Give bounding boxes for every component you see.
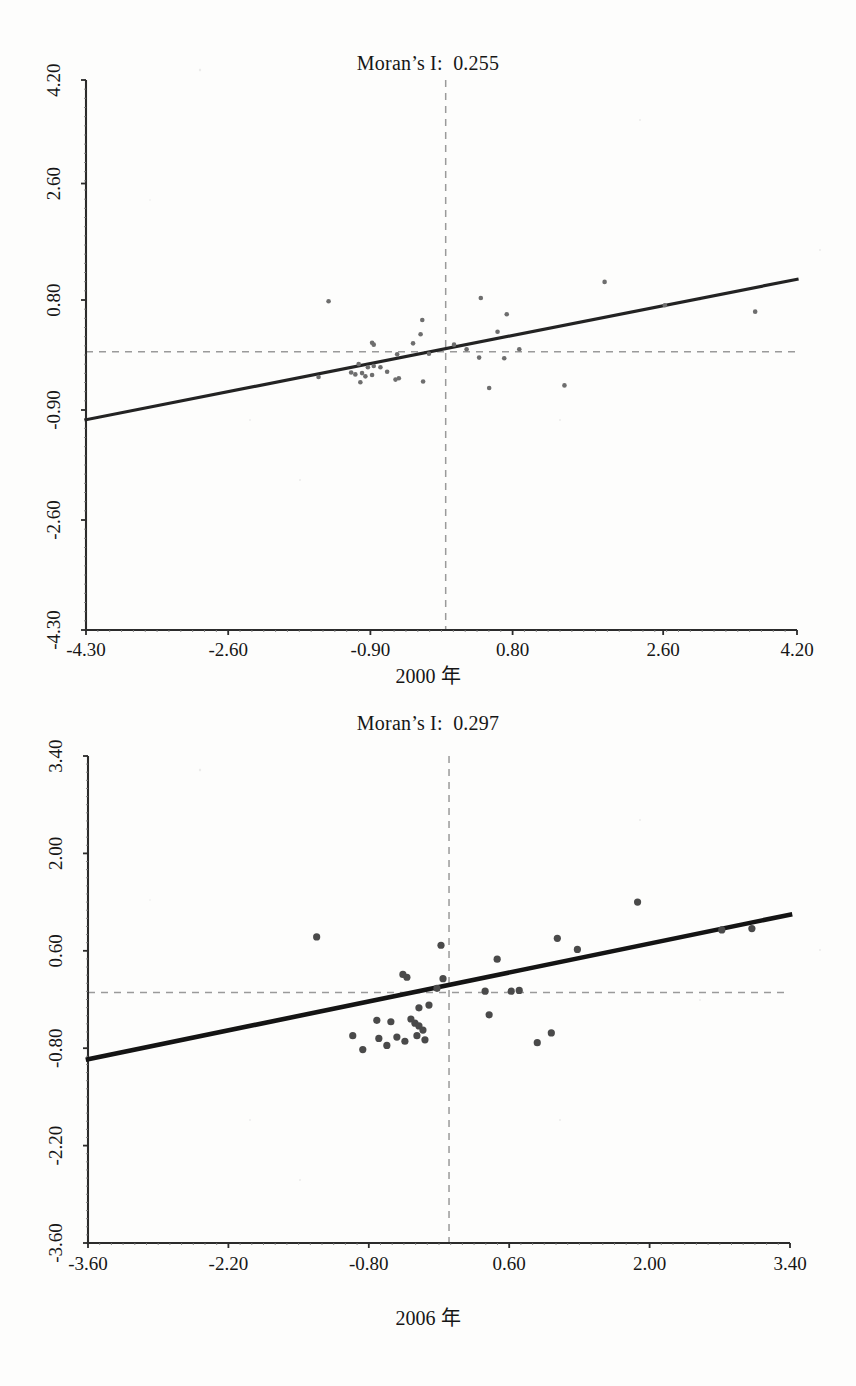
data-point <box>574 946 581 953</box>
paper-speck <box>639 119 641 121</box>
paper-speck <box>299 1179 301 1181</box>
data-point <box>634 899 641 906</box>
x-axis-tick-label: -4.30 <box>66 639 106 660</box>
x-axis-tick-label: -0.90 <box>351 639 391 660</box>
data-point <box>399 971 406 978</box>
data-point <box>562 383 567 388</box>
y-axis-tick-label: 2.00 <box>45 837 66 870</box>
data-point <box>395 352 400 357</box>
x-axis-tick-label: -2.60 <box>208 639 248 660</box>
paper-speck <box>199 69 201 71</box>
x-axis-caption-2000: 2000 年 <box>0 660 856 689</box>
data-point <box>360 371 365 376</box>
scatter-plot-2006: -3.60-2.20-0.800.602.003.40-3.60-2.20-0.… <box>0 700 856 1320</box>
x-axis-tick-label: 3.40 <box>773 1253 806 1274</box>
data-point <box>502 356 507 361</box>
y-axis-tick-label: -3.60 <box>45 1223 66 1263</box>
x-axis-tick-label: -3.60 <box>68 1253 108 1274</box>
data-point <box>358 380 363 385</box>
y-axis-tick-label: 0.80 <box>43 283 64 316</box>
paper-speck <box>249 419 251 421</box>
data-point <box>433 985 440 992</box>
data-point <box>753 309 758 314</box>
data-point <box>477 355 482 360</box>
page-canvas: Moran’s I: 0.255 -4.30-2.60-0.900.802.60… <box>0 0 856 1386</box>
data-point <box>356 362 361 367</box>
x-axis-tick-label: 0.60 <box>493 1253 526 1274</box>
data-point <box>464 347 469 352</box>
regression-line <box>86 279 797 419</box>
data-point <box>482 988 489 995</box>
paper-speck <box>559 419 561 421</box>
y-axis-tick-label: -4.30 <box>43 610 64 650</box>
x-axis-tick-label: -2.20 <box>209 1253 249 1274</box>
data-point <box>534 1039 541 1046</box>
data-point <box>397 376 402 381</box>
data-point <box>554 935 561 942</box>
data-point <box>439 975 446 982</box>
data-point <box>385 370 390 375</box>
data-point <box>415 1004 422 1011</box>
y-axis-tick-label: -0.90 <box>43 390 64 430</box>
data-point <box>370 373 375 378</box>
data-point <box>326 299 331 304</box>
x-axis-tick-label: 0.80 <box>496 639 529 660</box>
x-axis-tick-label: 2.60 <box>647 639 680 660</box>
data-point <box>401 1038 408 1045</box>
data-point <box>366 365 371 370</box>
paper-speck <box>199 769 201 771</box>
data-point <box>748 925 755 932</box>
data-point <box>437 942 444 949</box>
paper-speck <box>149 899 151 901</box>
data-point <box>421 1036 428 1043</box>
data-point <box>349 1032 356 1039</box>
data-point <box>371 364 376 369</box>
data-point <box>359 1046 366 1053</box>
data-point <box>371 342 376 347</box>
data-point <box>487 386 492 391</box>
paper-speck <box>699 999 701 1001</box>
y-axis-tick-label: -2.20 <box>45 1126 66 1166</box>
data-point <box>452 342 457 347</box>
data-point <box>378 365 383 370</box>
data-point <box>425 1001 432 1008</box>
data-point <box>383 1042 390 1049</box>
y-axis-tick-label: 2.60 <box>43 167 64 200</box>
scatter-plot-2000: -4.30-2.60-0.900.802.604.20-4.30-2.60-0.… <box>0 0 856 660</box>
data-point <box>316 375 321 380</box>
data-point <box>353 372 358 377</box>
data-point <box>413 1032 420 1039</box>
paper-speck <box>819 949 821 951</box>
data-point <box>486 1011 493 1018</box>
data-point <box>375 1035 382 1042</box>
data-point <box>363 374 368 379</box>
x-axis-caption-2006: 2006 年 <box>0 1302 856 1331</box>
data-point <box>479 296 484 301</box>
data-point <box>349 370 354 375</box>
paper-speck <box>559 1119 561 1121</box>
y-axis-tick-label: -0.80 <box>45 1028 66 1068</box>
data-point <box>663 303 668 308</box>
paper-speck <box>819 249 821 251</box>
data-point <box>495 329 500 334</box>
paper-speck <box>639 819 641 821</box>
figure-moran-2000: Moran’s I: 0.255 -4.30-2.60-0.900.802.60… <box>0 0 856 700</box>
y-axis-tick-label: 4.20 <box>43 63 64 96</box>
y-axis-tick-label: 0.60 <box>45 934 66 967</box>
data-point <box>421 379 426 384</box>
data-point <box>548 1029 555 1036</box>
data-point <box>516 987 523 994</box>
paper-speck <box>249 1119 251 1121</box>
data-point <box>411 341 416 346</box>
x-axis-tick-label: 2.00 <box>633 1253 666 1274</box>
y-axis-tick-label: -2.60 <box>43 500 64 540</box>
data-point <box>373 1017 380 1024</box>
figure-moran-2006: Moran’s I: 0.297 -3.60-2.20-0.800.602.00… <box>0 700 856 1386</box>
data-point <box>393 1033 400 1040</box>
data-point <box>418 332 423 337</box>
data-point <box>387 1018 394 1025</box>
data-point <box>718 926 725 933</box>
data-point <box>420 318 425 323</box>
y-axis-tick-label: 3.40 <box>45 739 66 772</box>
x-axis-tick-label: 4.20 <box>780 639 813 660</box>
